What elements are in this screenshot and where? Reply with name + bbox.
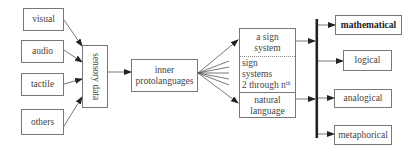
- input-visual: visual: [23, 8, 64, 31]
- proto-line2: protolanguages: [135, 76, 193, 87]
- output-logical-label: logical: [355, 55, 381, 66]
- arrow-audio-to-sensory: [64, 50, 82, 62]
- input-audio-label: audio: [32, 46, 53, 57]
- sign-systems-2-n-section: sign systems 2 through nth: [240, 56, 295, 93]
- output-mathematical-label: mathematical: [341, 20, 396, 31]
- input-audio: audio: [21, 40, 64, 63]
- arrow-proto-to-sign-system: [198, 40, 238, 73]
- sign-systems-stack: a sign system sign systems 2 through nth…: [239, 28, 296, 118]
- proto-line1: inner: [155, 65, 175, 76]
- natural-language-line1: natural: [254, 95, 280, 106]
- sign-systems-line2: systems: [242, 69, 272, 80]
- inner-protolanguages-box: inner protolanguages: [131, 59, 198, 92]
- superscript-th: th: [286, 80, 291, 86]
- output-analogical-label: analogical: [343, 93, 382, 104]
- input-tactile-label: tactile: [31, 79, 54, 90]
- input-tactile: tactile: [21, 73, 64, 96]
- sign-systems-line3: 2 through nth: [242, 80, 290, 91]
- vertical-bar: [316, 19, 319, 138]
- input-visual-label: visual: [32, 14, 55, 25]
- arrow-tactile-to-sensory: [64, 79, 82, 84]
- sign-systems-line1: sign: [242, 58, 258, 69]
- arrow-visual-to-sensory: [64, 20, 82, 46]
- output-mathematical: mathematical: [335, 15, 402, 35]
- arrow-proto-to-natural-language: [198, 73, 238, 103]
- sign-system-section: a sign system: [240, 29, 295, 56]
- sensory-data-label: sensory data: [90, 53, 101, 100]
- sign-system-line2: system: [254, 43, 280, 54]
- sign-system-line1: a sign: [256, 32, 278, 43]
- arrow-others-to-sensory: [64, 97, 82, 126]
- natural-language-section: natural language: [240, 93, 295, 118]
- output-logical: logical: [343, 50, 392, 71]
- natural-language-line2: language: [250, 106, 284, 117]
- input-others: others: [21, 109, 64, 135]
- input-others-label: others: [31, 117, 54, 128]
- sensory-data-box: sensory data: [82, 45, 108, 108]
- output-metaphorical: metaphorical: [334, 125, 392, 145]
- output-analogical: analogical: [334, 89, 392, 108]
- output-metaphorical-label: metaphorical: [338, 130, 388, 141]
